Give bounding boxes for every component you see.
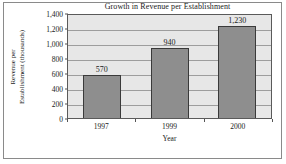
x-axis-tick-label: 1997 [67, 122, 135, 131]
y-axis-tick-label: 600 [52, 70, 63, 79]
bar-slot: 570 [68, 15, 136, 118]
bar-slot: 940 [136, 15, 204, 118]
bar-value-label: 940 [164, 38, 176, 47]
bar [151, 48, 189, 119]
y-axis-tick-label: 200 [52, 100, 63, 109]
y-axis-tick-label: 0 [59, 115, 63, 124]
y-axis-tick-label: 400 [52, 85, 63, 94]
bar [83, 75, 121, 118]
x-axis-title: Year [67, 134, 272, 143]
x-axis-tick-label: 2000 [204, 122, 272, 131]
plot-area: 5709401,230 [67, 14, 272, 119]
y-axis-tick-label: 800 [52, 55, 63, 64]
chart-title: Growth in Revenue per Establishment [60, 2, 275, 11]
y-axis-title-line2: Establishment (thousands) [18, 29, 27, 103]
y-axis-title: Revenue per Establishment (thousands) [6, 14, 30, 119]
bar [218, 26, 256, 118]
bar-series: 5709401,230 [68, 15, 271, 118]
bar-slot: 1,230 [203, 15, 271, 118]
y-axis-tick-label: 1,200 [46, 25, 63, 34]
y-axis-tick-labels: 02004006008001,0001,2001,400 [28, 10, 65, 123]
x-axis-tick-labels: 199719992000 [67, 122, 272, 131]
bar-value-label: 570 [96, 65, 108, 74]
y-axis-title-line1: Revenue per [9, 29, 18, 103]
y-axis-tick-label: 1,400 [46, 10, 63, 19]
y-axis-tick-label: 1,000 [46, 40, 63, 49]
x-axis-tick-mark [272, 119, 273, 122]
chart-figure: Growth in Revenue per Establishment Reve… [0, 0, 286, 164]
bar-value-label: 1,230 [228, 16, 246, 25]
x-axis-tick-label: 1999 [135, 122, 203, 131]
